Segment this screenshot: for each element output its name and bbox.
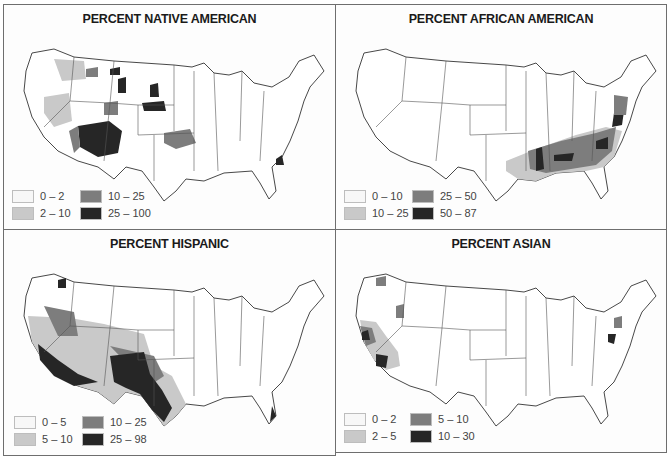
legend-swatch	[12, 190, 34, 203]
legend-item: 25 – 50	[412, 189, 522, 205]
legend-label: 2 – 10	[40, 207, 71, 219]
choropleth-grid: PERCENT NATIVE AMERICAN	[0, 0, 670, 462]
panel-native-american: PERCENT NATIVE AMERICAN	[3, 4, 336, 230]
legend-swatch	[14, 416, 36, 429]
panel-title: PERCENT NATIVE AMERICAN	[4, 12, 335, 26]
panel-title: PERCENT HISPANIC	[4, 237, 335, 251]
legend-label: 10 – 30	[438, 430, 475, 442]
legend-item: 10 – 25	[80, 189, 190, 205]
legend-label: 25 – 100	[108, 207, 151, 219]
legend-label: 0 – 2	[40, 190, 64, 202]
panel-african-american: PERCENT AFRICAN AMERICAN 0 – 10	[335, 4, 667, 230]
us-county-map	[14, 256, 329, 441]
legend-swatch	[344, 190, 366, 203]
legend-label: 10 – 25	[108, 190, 145, 202]
legend: 0 – 2 2 – 10 10 – 25 25 – 100	[12, 189, 212, 225]
legend-swatch	[344, 430, 366, 443]
legend-item: 25 – 98	[82, 432, 192, 448]
legend-item: 25 – 100	[80, 206, 190, 222]
legend-label: 10 – 25	[110, 416, 147, 428]
legend-swatch	[14, 433, 36, 446]
legend-swatch	[12, 207, 34, 220]
legend-label: 50 – 87	[440, 207, 477, 219]
legend: 0 – 2 2 – 5 5 – 10 10 – 30	[344, 412, 544, 448]
legend-label: 2 – 5	[372, 430, 396, 442]
legend-item: 10 – 30	[410, 429, 520, 445]
panel-title: PERCENT AFRICAN AMERICAN	[336, 12, 666, 26]
legend: 0 – 10 10 – 25 25 – 50 50 – 87	[344, 189, 544, 225]
legend-label: 0 – 2	[372, 413, 396, 425]
legend-swatch	[344, 413, 366, 426]
panel-asian: PERCENT ASIAN 0 – 2	[335, 229, 667, 453]
legend-swatch	[412, 190, 434, 203]
legend-item: 5 – 10	[410, 412, 520, 428]
legend-swatch	[80, 190, 102, 203]
legend-label: 10 – 25	[372, 207, 409, 219]
legend-swatch	[410, 430, 432, 443]
panel-hispanic: PERCENT HISPANIC 0 – 5	[3, 229, 336, 456]
legend-label: 25 – 98	[110, 433, 147, 445]
legend-swatch	[82, 416, 104, 429]
panel-title: PERCENT ASIAN	[336, 237, 666, 251]
legend-swatch	[82, 433, 104, 446]
legend-item: 10 – 25	[82, 415, 192, 431]
legend: 0 – 5 5 – 10 10 – 25 25 – 98	[12, 415, 212, 451]
legend-swatch	[80, 207, 102, 220]
legend-label: 5 – 10	[438, 413, 469, 425]
legend-label: 0 – 5	[42, 416, 66, 428]
legend-label: 0 – 10	[372, 190, 403, 202]
legend-swatch	[344, 207, 366, 220]
legend-label: 25 – 50	[440, 190, 477, 202]
legend-label: 5 – 10	[42, 433, 73, 445]
legend-swatch	[410, 413, 432, 426]
legend-swatch	[412, 207, 434, 220]
legend-item: 50 – 87	[412, 206, 522, 222]
